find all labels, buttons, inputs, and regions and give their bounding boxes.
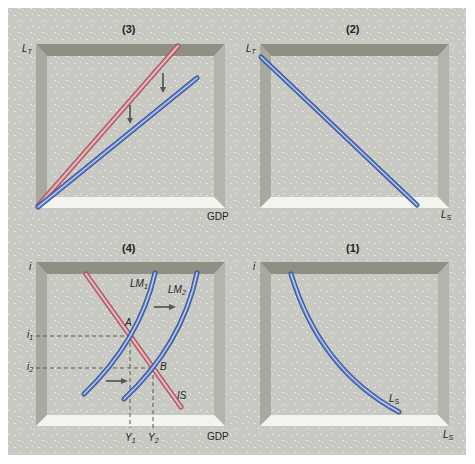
panel-4-title: (4) — [122, 243, 135, 254]
panel-2-y-axis-label: LT — [246, 44, 256, 55]
i1-label: i1 — [27, 330, 33, 341]
panel-3-x-axis-label: GDP — [207, 212, 229, 222]
lm1-label: LM1 — [130, 279, 148, 290]
panel-4-y-axis-label: i — [29, 262, 31, 272]
speckle-texture — [8, 8, 466, 455]
i2-label: i2 — [27, 362, 33, 373]
panel-1-y-axis-label: i — [253, 262, 255, 272]
panel-1-title: (1) — [346, 243, 359, 254]
panel-4-x-axis-label: GDP — [207, 432, 229, 442]
panel-3-title: (3) — [122, 24, 135, 35]
lm2-label: LM2 — [168, 285, 186, 296]
panel-2-title: (2) — [346, 24, 359, 35]
y2-label: Y2 — [148, 433, 159, 444]
panel-1-x-axis-label: LS — [443, 430, 453, 441]
panel-3-y-axis-label: LT — [22, 44, 32, 55]
point-b-label: B — [160, 362, 167, 372]
point-a-label: A — [125, 318, 132, 328]
y1-label: Y1 — [125, 433, 136, 444]
four-quadrant-diagram — [0, 0, 475, 464]
panel-1-curve-label: LS — [389, 394, 399, 405]
is-label: IS — [177, 391, 186, 401]
panel-2-x-axis-label: LS — [441, 210, 451, 221]
